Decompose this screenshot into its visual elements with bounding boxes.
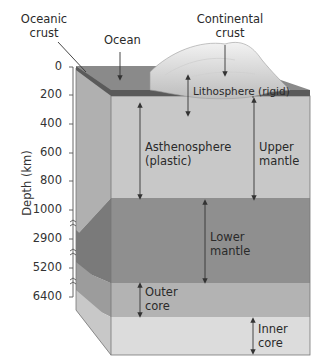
label-line: mantle: [259, 154, 299, 168]
label-continental-crust: Continental crust: [190, 12, 270, 40]
label-line: Outer: [145, 285, 178, 299]
depth-axis: [69, 67, 76, 297]
tick-5200: 5200: [18, 261, 62, 274]
label-line: Lower: [210, 230, 250, 244]
label-upper-mantle: Upper mantle: [259, 140, 299, 168]
label-line: mantle: [210, 244, 250, 258]
label-inner-core: Inner core: [258, 322, 288, 350]
label-line: Inner: [258, 322, 288, 336]
label-line: core: [145, 299, 178, 313]
label-line: crust: [190, 26, 270, 40]
label-lower-mantle: Lower mantle: [210, 230, 250, 258]
tick-400: 400: [18, 117, 62, 130]
tick-2900: 2900: [18, 232, 62, 245]
oceanic-crust-pointer: [58, 42, 86, 72]
front-outer-core: [111, 283, 310, 317]
tick-0: 0: [18, 60, 62, 73]
label-line: (plastic): [145, 154, 231, 168]
label-oceanic-crust: Oceanic crust: [12, 12, 76, 40]
axis-label-depth: Depth (km): [20, 148, 34, 218]
tick-200: 200: [18, 88, 62, 101]
label-line: Oceanic: [12, 12, 76, 26]
label-ocean: Ocean: [104, 33, 141, 47]
label-line: crust: [12, 26, 76, 40]
label-line: core: [258, 336, 288, 350]
label-lithosphere: Lithosphere (rigid): [193, 84, 290, 98]
tick-6400: 6400: [18, 290, 62, 303]
side-face: [76, 68, 111, 355]
front-face: [111, 96, 310, 355]
label-asthenosphere: Asthenosphere (plastic): [145, 140, 231, 168]
label-line: Continental: [190, 12, 270, 26]
label-line: Upper: [259, 140, 299, 154]
label-outer-core: Outer core: [145, 285, 178, 313]
label-line: Asthenosphere: [145, 140, 231, 154]
